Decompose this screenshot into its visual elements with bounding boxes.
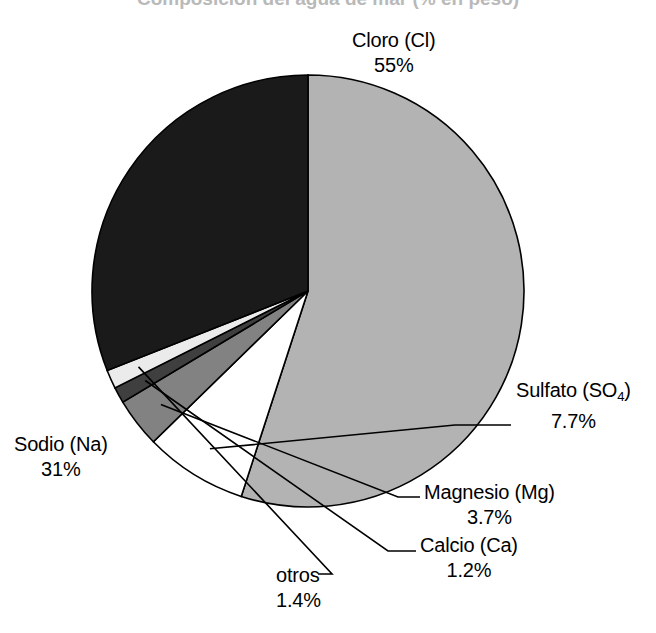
slice-label-calcio-name: Calcio (Ca) [420,533,518,558]
slice-label-otros: otros 1.4% [276,563,321,613]
slice-label-sodio: Sodio (Na) 31% [14,432,108,482]
pie-chart-page: Composición del agua de mar (% en peso) … [0,0,656,633]
slice-label-magnesio: Magnesio (Mg) 3.7% [424,480,555,530]
slice-label-calcio-value: 1.2% [420,558,518,583]
slice-label-calcio: Calcio (Ca) 1.2% [420,533,518,583]
slice-label-sulfato-value: 7.7% [516,409,631,434]
slice-label-sodio-value: 31% [14,457,108,482]
slice-label-magnesio-name: Magnesio (Mg) [424,480,555,505]
slice-label-cloro-name: Cloro (Cl) [352,28,436,53]
slice-label-cloro-value: 55% [352,53,436,78]
slice-label-sulfato: Sulfato (SO4) 7.7% [516,378,631,434]
slice-label-otros-name: otros [276,563,321,588]
pie-slices-group [92,75,524,507]
slice-label-sulfato-name: Sulfato (SO4) [516,378,631,409]
slice-label-cloro: Cloro (Cl) 55% [352,28,436,78]
slice-label-otros-value: 1.4% [276,588,321,613]
slice-label-sodio-name: Sodio (Na) [14,432,108,457]
slice-label-magnesio-value: 3.7% [424,505,555,530]
pie-chart-canvas [0,0,656,633]
